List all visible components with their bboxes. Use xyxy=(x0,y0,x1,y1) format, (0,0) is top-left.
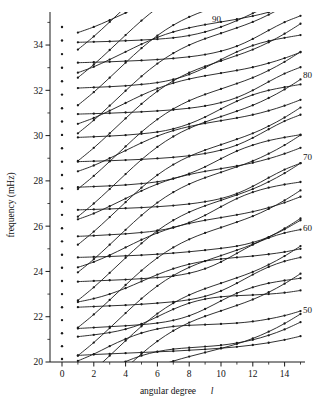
data-point xyxy=(252,294,254,296)
data-point xyxy=(188,107,190,109)
data-point xyxy=(140,269,142,271)
data-point xyxy=(77,76,79,78)
data-point xyxy=(204,65,206,67)
data-point xyxy=(188,34,190,36)
data-point xyxy=(93,235,95,237)
data-point xyxy=(252,144,254,146)
data-point xyxy=(268,342,270,344)
data-point xyxy=(252,15,254,17)
data-point xyxy=(124,159,126,161)
data-point xyxy=(172,37,174,39)
l0-data-point xyxy=(61,227,63,229)
data-point xyxy=(172,330,174,332)
data-point xyxy=(93,286,95,288)
data-point xyxy=(124,40,126,42)
data-point xyxy=(220,26,222,28)
data-point xyxy=(252,211,254,213)
data-point xyxy=(220,258,222,260)
data-point xyxy=(299,114,301,116)
data-point xyxy=(93,119,95,121)
data-point xyxy=(236,144,238,146)
data-point xyxy=(172,325,174,327)
data-point xyxy=(140,278,142,280)
data-point xyxy=(93,280,95,282)
data-point xyxy=(109,21,111,23)
data-point xyxy=(236,110,238,112)
data-point xyxy=(236,150,238,152)
data-point xyxy=(252,298,254,300)
data-point xyxy=(236,343,238,345)
data-point xyxy=(93,117,95,119)
data-point xyxy=(252,94,254,96)
data-point xyxy=(156,350,158,352)
data-point xyxy=(172,319,174,321)
data-point xyxy=(140,75,142,77)
data-point xyxy=(77,160,79,162)
data-point xyxy=(172,80,174,82)
data-point xyxy=(77,113,79,115)
data-point xyxy=(188,299,190,301)
data-point xyxy=(124,284,126,286)
data-point xyxy=(140,59,142,61)
data-point xyxy=(93,313,95,315)
data-point xyxy=(252,21,254,23)
data-point xyxy=(204,249,206,251)
data-point xyxy=(236,19,238,21)
data-point xyxy=(268,253,270,255)
data-point xyxy=(140,94,142,96)
data-point xyxy=(268,187,270,189)
data-point xyxy=(283,292,285,294)
data-point xyxy=(204,315,206,317)
data-point xyxy=(236,282,238,284)
data-point xyxy=(236,166,238,168)
data-point xyxy=(156,58,158,60)
data-point xyxy=(204,75,206,77)
data-point xyxy=(268,89,270,91)
data-point xyxy=(299,273,301,275)
l0-data-point xyxy=(61,26,63,28)
data-point xyxy=(283,144,285,146)
data-point xyxy=(236,100,238,102)
data-point xyxy=(140,19,142,21)
data-point xyxy=(252,185,254,187)
l0-data-point xyxy=(61,253,63,255)
data-point xyxy=(93,256,95,258)
data-point xyxy=(93,63,95,65)
radial-order-label: 60 xyxy=(303,223,313,233)
data-point xyxy=(283,136,285,138)
data-point xyxy=(268,177,270,179)
data-point xyxy=(236,304,238,306)
data-point xyxy=(77,188,79,190)
data-point xyxy=(188,321,190,323)
data-point xyxy=(236,69,238,71)
data-point xyxy=(299,23,301,25)
data-point xyxy=(93,136,95,138)
data-point xyxy=(188,355,190,357)
data-point xyxy=(124,90,126,92)
data-point xyxy=(109,327,111,329)
data-point xyxy=(268,208,270,210)
data-point xyxy=(252,286,254,288)
data-point xyxy=(299,196,301,198)
data-point xyxy=(109,76,111,78)
data-point xyxy=(299,34,301,36)
data-point xyxy=(204,93,206,95)
data-point xyxy=(124,184,126,186)
data-point xyxy=(124,229,126,231)
data-point xyxy=(188,203,190,205)
data-point xyxy=(252,160,254,162)
data-point xyxy=(109,279,111,281)
data-point xyxy=(172,204,174,206)
data-point xyxy=(140,39,142,41)
data-point xyxy=(268,69,270,71)
data-point xyxy=(172,350,174,352)
data-point xyxy=(299,66,301,68)
data-point xyxy=(204,24,206,26)
data-point xyxy=(77,355,79,357)
data-point xyxy=(204,348,206,350)
data-point xyxy=(140,214,142,216)
data-point xyxy=(124,12,126,14)
data-point xyxy=(236,221,238,223)
data-point xyxy=(124,149,126,151)
data-point xyxy=(299,181,301,183)
